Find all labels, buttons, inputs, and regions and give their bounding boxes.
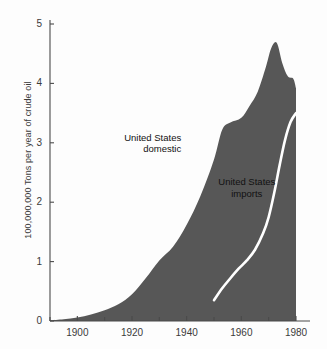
x-axis-tick-label: 1960: [221, 327, 261, 338]
x-axis-tick-label: 1900: [57, 327, 97, 338]
annotation-united-states-imports: United States imports: [187, 176, 307, 199]
x-axis-tick-labels: 19001920194019601980: [0, 327, 327, 343]
annotation-domestic-line2: domestic: [61, 143, 181, 155]
chart-plot-area: [0, 0, 327, 349]
annotation-imports-line2: imports: [187, 188, 307, 200]
oil-production-area-chart: 100,000,000 Tons per year of crude oil 0…: [0, 0, 327, 349]
x-axis-tick-label: 1940: [167, 327, 207, 338]
annotation-united-states-domestic: United States domestic: [61, 132, 181, 155]
annotation-domestic-line1: United States: [61, 132, 181, 144]
x-axis-tick-label: 1920: [112, 327, 152, 338]
x-axis-tick-label: 1980: [276, 327, 316, 338]
annotation-imports-line1: United States: [187, 176, 307, 188]
